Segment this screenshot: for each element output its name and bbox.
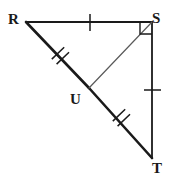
vertex-label-U: U [70, 92, 81, 107]
geometry-figure: R S T U [0, 0, 173, 181]
vertex-label-T: T [152, 161, 162, 176]
geometry-canvas [0, 0, 173, 181]
tick-marks-RU [52, 47, 69, 64]
segment-RU [26, 22, 89, 88]
segment-US [89, 22, 152, 88]
vertex-label-S: S [152, 11, 160, 26]
vertex-label-R: R [8, 12, 19, 27]
